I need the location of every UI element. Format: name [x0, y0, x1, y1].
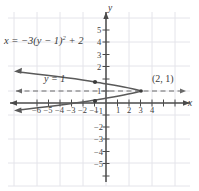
y-axis-name: y — [108, 4, 112, 14]
y-tick-label-neg2: −2 — [94, 123, 103, 132]
vertex-label: (2, 1) — [152, 74, 174, 84]
y-tick-label-neg1: −1 — [94, 107, 103, 116]
x-axis-name: x — [188, 99, 192, 109]
y-tick-label-neg4: −4 — [94, 148, 103, 157]
y-tick-label-5: 5 — [97, 26, 101, 35]
equation-rhs-suffix: + 2 — [68, 35, 83, 46]
equation-equals: = — [11, 35, 18, 46]
x-tick-label-neg2: −2 — [78, 106, 87, 115]
y-tick-label-4: 4 — [97, 38, 101, 47]
axis-of-symmetry-label: y = 1 — [44, 74, 65, 84]
equation-label: x = −3(y − 1)2 + 2 — [4, 36, 83, 47]
y-tick-label-3: 3 — [97, 51, 101, 60]
y-tick-label-1: 1 — [97, 87, 101, 96]
x-tick-label-neg3: −3 — [67, 106, 76, 115]
equation-rhs-prefix: −3(y − 1) — [21, 35, 63, 46]
y-axis — [103, 12, 108, 182]
x-tick-label-neg5: −5 — [44, 106, 53, 115]
equation-exponent: 2 — [63, 34, 66, 41]
y-tick-label-2: 2 — [97, 63, 101, 72]
y-tick-label-neg3: −3 — [94, 135, 103, 144]
equation-lhs: x — [4, 35, 9, 46]
x-tick-label-neg4: −4 — [55, 106, 64, 115]
x-tick-label-1: 1 — [116, 106, 120, 115]
x-tick-label-neg6: −6 — [32, 106, 41, 115]
x-tick-label-3: 3 — [139, 106, 143, 115]
y-tick-label-neg5: −5 — [94, 160, 103, 169]
x-tick-label-2: 2 — [127, 106, 131, 115]
x-tick-label-4: 4 — [150, 106, 154, 115]
parabola-figure: x = −3(y − 1)2 + 2 y = 1 (2, 1) x y −6 −… — [0, 0, 199, 191]
